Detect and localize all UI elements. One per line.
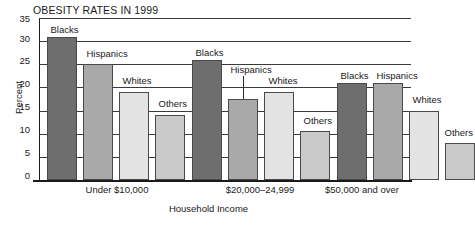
- y-tick-15: 15: [4, 102, 30, 112]
- bar-others-20000-24999: [300, 131, 330, 180]
- y-tick-25: 25: [4, 56, 30, 66]
- x-category-50000-and-over: $50,000 and over: [286, 184, 438, 195]
- bar-others-50000-and-over: [445, 143, 475, 180]
- chart-title: OBESITY RATES IN 1999: [33, 4, 158, 16]
- bar-blacks-20000-24999: [192, 60, 222, 180]
- bar-others-under-10000: [155, 115, 185, 180]
- bar-label-blacks-3: Blacks: [339, 71, 370, 81]
- y-tick-5: 5: [4, 148, 30, 158]
- bar-label-hispanics-1: Hispanics: [85, 49, 129, 59]
- plot-area: Blacks Hispanics Whites Others Blacks Hi…: [39, 18, 411, 180]
- x-category-under-10000: Under $10,000: [39, 184, 195, 195]
- gridline-30: [39, 41, 411, 42]
- leader-line-hispanics-2: [243, 76, 244, 99]
- x-axis-line: [33, 180, 412, 182]
- bar-label-whites-3: Whites: [411, 95, 443, 105]
- gridline-35: [39, 18, 411, 19]
- bar-label-hispanics-2: Hispanics: [229, 65, 273, 75]
- y-tick-30: 30: [4, 34, 30, 44]
- y-tick-10: 10: [4, 125, 30, 135]
- bar-whites-50000-and-over: [409, 111, 439, 180]
- y-tick-20: 20: [4, 79, 30, 89]
- bar-label-blacks-1: Blacks: [49, 25, 80, 35]
- bar-hispanics-50000-and-over: [373, 83, 403, 180]
- bar-hispanics-20000-24999: [228, 99, 258, 180]
- bar-label-whites-2: Whites: [267, 76, 299, 86]
- bar-whites-20000-24999: [264, 92, 294, 180]
- y-tick-0: 0: [4, 171, 30, 181]
- bar-whites-under-10000: [119, 92, 149, 180]
- bar-hispanics-under-10000: [83, 64, 113, 180]
- bar-blacks-under-10000: [47, 37, 77, 180]
- x-axis-title: Household Income: [0, 203, 417, 214]
- bar-blacks-50000-and-over: [337, 83, 367, 180]
- bar-label-others-1: Others: [157, 99, 189, 109]
- bar-label-others-2: Others: [302, 116, 334, 126]
- bar-label-hispanics-3: Hispanics: [375, 71, 419, 81]
- bar-label-blacks-2: Blacks: [194, 48, 225, 58]
- bar-label-others-3: Others: [443, 128, 475, 138]
- y-axis-ticks: 35 30 25 20 15 10 5 0: [4, 0, 30, 227]
- bar-label-whites-1: Whites: [121, 76, 153, 86]
- y-tick-35: 35: [4, 14, 30, 24]
